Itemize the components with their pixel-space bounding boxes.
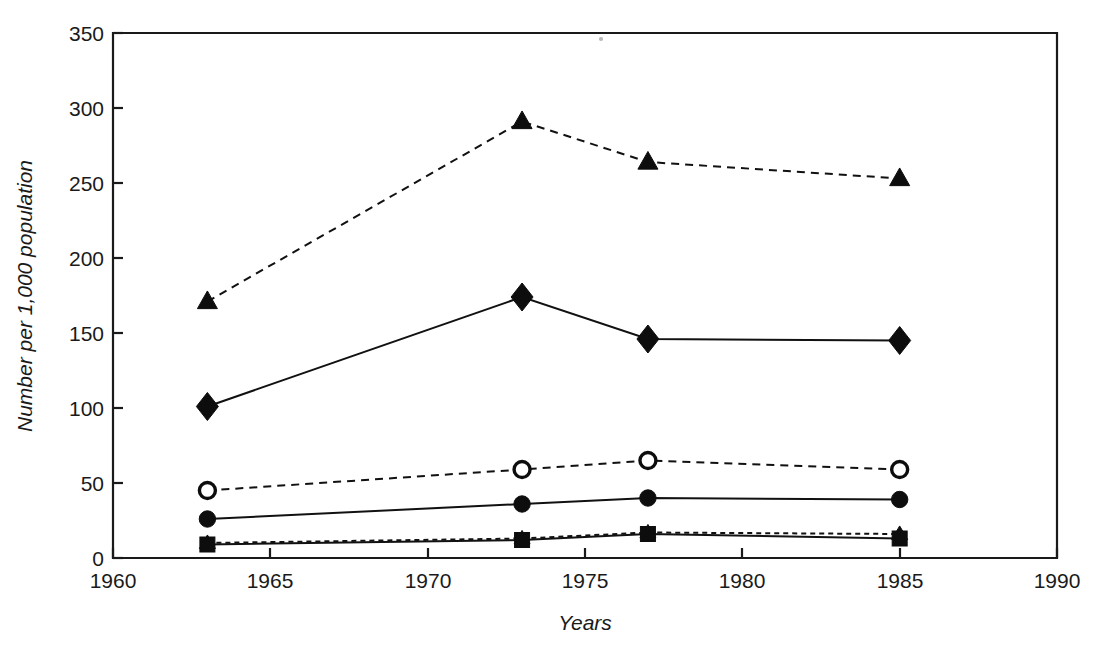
y-tick-label-100: 100 — [69, 397, 104, 420]
chart-figure: 0 50 100 150 200 250 300 350 1960 1965 1… — [0, 0, 1106, 649]
y-tick-label-250: 250 — [69, 172, 104, 195]
x-tick-label-1975: 1975 — [562, 569, 609, 592]
x-tick-label-1980: 1980 — [719, 569, 766, 592]
x-tick-label-1965: 1965 — [247, 569, 294, 592]
y-axis-title: Number per 1,000 population — [13, 160, 36, 432]
series-open-circle-dashed-marker — [199, 483, 215, 499]
series-filled-circle-solid-marker — [199, 511, 215, 527]
scan-speck — [599, 37, 603, 41]
x-axis-title: Years — [558, 611, 612, 634]
x-tick-label-1960: 1960 — [90, 569, 137, 592]
series-open-circle-dashed-marker — [640, 453, 656, 469]
y-tick-label-50: 50 — [81, 472, 104, 495]
y-tick-label-0: 0 — [92, 547, 104, 570]
series-square-solid-marker — [200, 537, 215, 552]
series-square-solid-marker — [515, 533, 530, 548]
y-tick-label-300: 300 — [69, 97, 104, 120]
series-filled-circle-solid-marker — [891, 491, 907, 507]
chart-background — [0, 0, 1106, 649]
series-square-solid-marker — [892, 531, 907, 546]
x-tick-label-1990: 1990 — [1034, 569, 1081, 592]
series-filled-circle-solid-marker — [640, 490, 656, 506]
y-tick-label-350: 350 — [69, 22, 104, 45]
series-filled-circle-solid-marker — [514, 496, 530, 512]
x-tick-label-1985: 1985 — [877, 569, 924, 592]
x-tick-label-1970: 1970 — [405, 569, 452, 592]
line-chart: 0 50 100 150 200 250 300 350 1960 1965 1… — [0, 0, 1106, 649]
series-open-circle-dashed-marker — [892, 462, 908, 478]
y-tick-label-200: 200 — [69, 247, 104, 270]
series-square-solid-marker — [640, 527, 655, 542]
y-tick-label-150: 150 — [69, 322, 104, 345]
series-open-circle-dashed-marker — [514, 462, 530, 478]
